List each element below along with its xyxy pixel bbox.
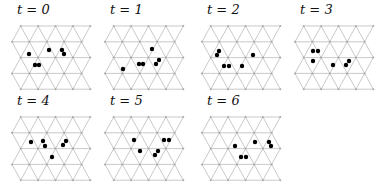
particle — [269, 144, 273, 148]
particle — [64, 139, 68, 143]
particle — [215, 53, 219, 57]
panel-title: t = 1 — [110, 2, 143, 17]
particle — [29, 140, 33, 144]
particle — [217, 49, 221, 53]
particle — [239, 155, 243, 159]
particle — [153, 153, 157, 157]
panel-title: t = 4 — [17, 93, 50, 108]
particle — [244, 155, 248, 159]
panel-title: t = 6 — [207, 93, 240, 108]
particle — [43, 144, 47, 148]
panel-title: t = 5 — [110, 93, 143, 108]
particle — [347, 59, 351, 63]
particle — [267, 140, 271, 144]
particle — [27, 52, 31, 56]
particle — [222, 64, 226, 68]
particle — [240, 64, 244, 68]
particle — [37, 63, 41, 67]
panel-title: t = 0 — [17, 2, 50, 17]
triangular-lattice — [11, 25, 91, 90]
particle — [132, 138, 136, 142]
triangular-lattice — [104, 25, 184, 90]
particle — [60, 48, 64, 52]
particle — [311, 59, 315, 63]
triangular-lattice — [294, 25, 374, 90]
particle — [331, 63, 335, 67]
triangular-lattice — [201, 116, 281, 181]
particle — [138, 149, 142, 153]
particle — [227, 64, 231, 68]
particle — [344, 63, 348, 67]
triangular-lattice — [201, 25, 281, 90]
lattice-svg — [0, 0, 386, 188]
particle — [253, 140, 257, 144]
particle — [47, 48, 51, 52]
particle — [156, 149, 160, 153]
particle — [154, 62, 158, 66]
panel-title: t = 2 — [207, 2, 240, 17]
particle — [233, 144, 237, 148]
particle — [62, 52, 66, 56]
particle — [162, 138, 166, 142]
particle — [33, 63, 37, 67]
particle — [41, 139, 45, 143]
particle — [61, 143, 65, 147]
particle — [50, 155, 54, 159]
particle — [150, 47, 154, 51]
triangular-lattice — [11, 116, 91, 181]
particle — [141, 62, 145, 66]
triangular-lattice — [104, 116, 184, 181]
particle — [121, 67, 125, 71]
particle — [157, 58, 161, 62]
particle — [167, 138, 171, 142]
particle — [137, 62, 141, 66]
particle — [316, 49, 320, 53]
panel-title: t = 3 — [300, 2, 333, 17]
particle — [311, 49, 315, 53]
particle — [251, 53, 255, 57]
